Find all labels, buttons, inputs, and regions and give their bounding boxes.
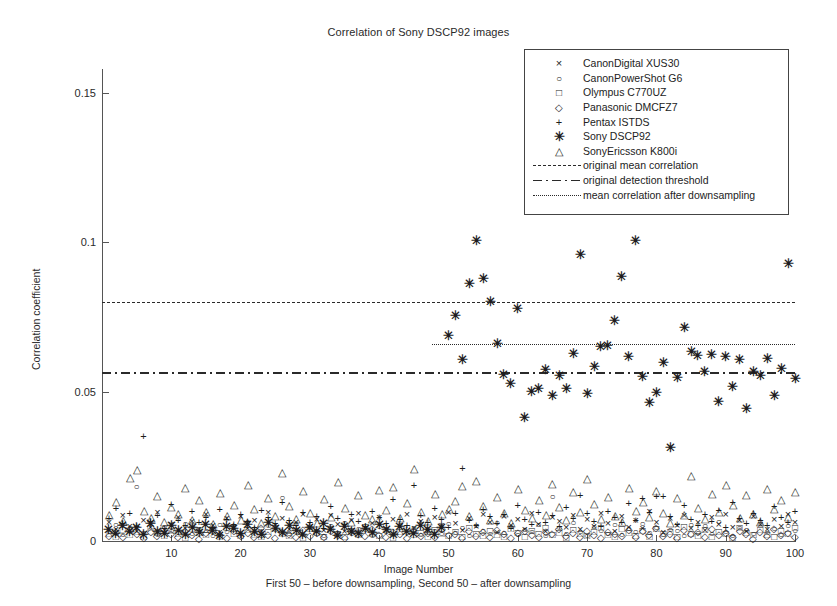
- legend-item[interactable]: original mean correlation: [525, 158, 788, 173]
- data-point: △: [209, 518, 217, 529]
- data-point: +: [535, 506, 541, 517]
- data-point: ×: [577, 524, 583, 535]
- data-point: ✳: [512, 301, 523, 314]
- data-point: □: [196, 528, 202, 538]
- data-point: ×: [300, 509, 306, 520]
- data-point: ○: [321, 531, 327, 541]
- legend-item[interactable]: □Olympus C770UZ: [525, 85, 788, 100]
- data-point: ◇: [465, 526, 473, 536]
- data-point: ×: [424, 526, 430, 537]
- data-point: ×: [494, 527, 500, 538]
- data-point: ×: [376, 511, 382, 522]
- data-point: ✳: [485, 294, 496, 307]
- data-point: ✳: [318, 517, 329, 530]
- legend-item[interactable]: original detection threshold: [525, 173, 788, 188]
- data-point: ×: [619, 511, 625, 522]
- data-point: +: [404, 520, 410, 531]
- data-point: ×: [764, 524, 770, 535]
- data-point: ×: [778, 521, 784, 532]
- legend-item[interactable]: ×CanonDigital XUS30: [525, 56, 788, 71]
- data-point: ○: [487, 529, 493, 539]
- data-point: ○: [231, 522, 237, 532]
- data-point: ×: [210, 519, 216, 530]
- data-point: △: [451, 494, 459, 505]
- data-point: +: [736, 512, 742, 523]
- data-point: +: [646, 507, 652, 518]
- legend-item[interactable]: mean correlation after downsampling: [525, 187, 788, 202]
- data-point: △: [181, 482, 189, 493]
- x-axis-label: Image Number: [0, 563, 837, 575]
- legend-item[interactable]: +Pentax ISTDS: [525, 114, 788, 129]
- data-point: □: [473, 529, 479, 539]
- data-point: △: [188, 513, 196, 524]
- data-point: ×: [667, 512, 673, 523]
- data-point: +: [321, 522, 327, 533]
- data-point: +: [785, 516, 791, 527]
- data-point: ◇: [160, 524, 168, 534]
- data-point: ◇: [209, 525, 217, 535]
- data-point: ×: [113, 523, 119, 534]
- data-point: □: [688, 529, 694, 539]
- data-point: △: [347, 515, 355, 526]
- x-tick-mark: [795, 535, 796, 542]
- data-point: ×: [736, 515, 742, 526]
- data-point: ✳: [277, 526, 288, 539]
- data-point: ○: [418, 530, 424, 540]
- data-point: +: [133, 521, 139, 532]
- data-point: ◇: [375, 530, 383, 540]
- data-point: △: [230, 498, 238, 509]
- data-point: □: [432, 525, 438, 535]
- data-point: ✳: [270, 521, 281, 534]
- data-point: ◇: [202, 528, 210, 538]
- data-point: ×: [203, 508, 209, 519]
- data-point: △: [749, 507, 757, 518]
- data-point: ×: [605, 517, 611, 528]
- data-point: +: [625, 497, 631, 508]
- data-point: △: [729, 498, 737, 509]
- data-point: ○: [189, 529, 195, 539]
- data-point: □: [612, 532, 618, 542]
- data-point: □: [653, 524, 659, 534]
- data-point: △: [479, 499, 487, 510]
- data-point: ◇: [195, 534, 203, 544]
- data-point: +: [210, 522, 216, 533]
- data-point: ×: [771, 514, 777, 525]
- data-point: ✳: [394, 520, 405, 533]
- data-point: ◇: [167, 529, 175, 539]
- legend-item[interactable]: ○CanonPowerShot G6: [525, 71, 788, 86]
- data-point: △: [486, 513, 494, 524]
- data-point: ×: [397, 521, 403, 532]
- data-point: ○: [355, 524, 361, 534]
- data-point: □: [418, 528, 424, 538]
- data-point: ○: [764, 528, 770, 538]
- data-point: ○: [771, 524, 777, 534]
- data-point: ○: [730, 531, 736, 541]
- data-point: +: [681, 500, 687, 511]
- data-point: +: [792, 506, 798, 517]
- data-point: △: [701, 513, 709, 524]
- legend-item[interactable]: ◇Panasonic DMCFZ7: [525, 100, 788, 115]
- data-point: ◇: [410, 525, 418, 535]
- data-point: △: [438, 507, 446, 518]
- data-point: ○: [244, 517, 250, 527]
- data-point: ✳: [346, 524, 357, 537]
- data-point: ×: [743, 526, 749, 537]
- data-point: △: [770, 503, 778, 514]
- data-point: ○: [161, 522, 167, 532]
- data-point: □: [667, 527, 673, 537]
- data-point: ○: [681, 531, 687, 541]
- legend-item[interactable]: △SonyEricsson K800i: [525, 144, 788, 159]
- data-point: ✳: [297, 527, 308, 540]
- data-point: ✳: [595, 340, 606, 353]
- data-point: +: [612, 511, 618, 522]
- legend-item-label: SonyEricsson K800i: [583, 145, 677, 157]
- data-point: △: [569, 485, 577, 496]
- y-tick-label: 0.05: [40, 386, 96, 398]
- data-point: □: [646, 532, 652, 542]
- data-point: +: [258, 504, 264, 515]
- legend-item[interactable]: ✳Sony DSCP92: [525, 129, 788, 144]
- data-point: □: [307, 524, 313, 534]
- data-point: ◇: [327, 526, 335, 536]
- data-point: □: [244, 525, 250, 535]
- data-point: ✳: [769, 388, 780, 401]
